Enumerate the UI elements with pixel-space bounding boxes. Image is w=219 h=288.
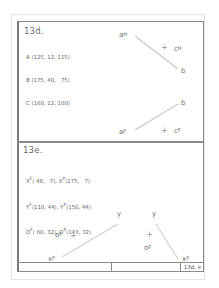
label-a-h: aH bbox=[119, 32, 127, 39]
label-a-f: aF bbox=[119, 129, 126, 136]
coord-b: B (175, 40, 75) bbox=[26, 77, 70, 85]
title-block-divider bbox=[111, 262, 112, 272]
coord-c: C (160, 12, 100) bbox=[26, 100, 70, 108]
line-xy-profile bbox=[156, 224, 178, 259]
label-c-f: cF bbox=[174, 128, 181, 135]
coord-x: XF( 48, 7), XP(175, 7) bbox=[26, 175, 91, 185]
line-ab-front bbox=[135, 104, 178, 130]
label-b-f: b bbox=[181, 100, 185, 107]
coord-a: A (125, 12, 115) bbox=[26, 54, 70, 62]
label-o-p: oP bbox=[144, 245, 151, 252]
panel-d-coords: A (125, 12, 115) B (175, 40, 75) C (160,… bbox=[26, 39, 70, 115]
label-c-h: cH bbox=[174, 46, 182, 53]
label-o-f: oF bbox=[55, 232, 62, 239]
sheet-tag: 13d, e bbox=[180, 263, 204, 272]
coord-y: YF(110, 44), YP(150, 44) bbox=[26, 201, 91, 211]
label-y-f: y bbox=[117, 211, 121, 218]
panel-d-title: 13d. bbox=[24, 26, 44, 36]
point-c-h-marker: + bbox=[161, 44, 168, 52]
point-c-f-marker: + bbox=[161, 127, 168, 135]
panel-e-title: 13e. bbox=[23, 145, 43, 155]
label-b-h: b bbox=[181, 68, 185, 75]
line-ab-top bbox=[135, 36, 178, 69]
point-o-p-marker: + bbox=[146, 231, 153, 239]
point-o-f-marker: + bbox=[70, 232, 77, 240]
label-y-p: y bbox=[152, 211, 156, 218]
